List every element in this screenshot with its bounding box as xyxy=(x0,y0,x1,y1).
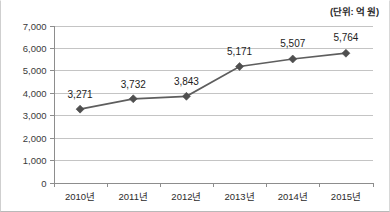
data-point-labels: 3,2713,7323,8435,1715,5075,764 xyxy=(68,32,359,100)
data-point-label: 5,764 xyxy=(333,32,358,43)
x-tick-label: 2014년 xyxy=(278,191,308,202)
chart-container: (단위: 억 원) 01,0002,0003,0004,0005,0006,00… xyxy=(0,0,390,212)
y-tick-label: 6,000 xyxy=(23,43,47,54)
y-axis: 01,0002,0003,0004,0005,0006,0007,000 xyxy=(23,21,54,189)
x-tick-label: 2013년 xyxy=(225,191,255,202)
data-point-label: 5,507 xyxy=(280,38,305,49)
x-tick-label: 2011년 xyxy=(119,191,148,202)
x-axis: 2010년2011년2012년2013년2014년2015년 xyxy=(54,183,374,202)
data-point-label: 3,843 xyxy=(174,76,199,87)
y-tick-label: 1,000 xyxy=(23,155,47,166)
series-marker xyxy=(76,105,84,113)
y-tick-label: 0 xyxy=(41,178,46,189)
series-marker xyxy=(129,95,137,103)
y-tick-label: 5,000 xyxy=(23,65,47,76)
x-tick-label: 2010년 xyxy=(65,191,95,202)
line-chart-plot: 01,0002,0003,0004,0005,0006,0007,000 201… xyxy=(1,1,390,212)
data-point-label: 3,271 xyxy=(68,89,93,100)
data-point-label: 3,732 xyxy=(121,79,146,90)
data-series xyxy=(76,49,350,113)
y-tick-label: 3,000 xyxy=(23,110,47,121)
gridlines-group xyxy=(54,27,373,161)
data-point-label: 5,171 xyxy=(227,46,252,57)
x-tick-label: 2015년 xyxy=(331,191,361,202)
series-marker xyxy=(342,49,350,57)
series-marker xyxy=(289,55,297,63)
x-tick-label: 2012년 xyxy=(171,191,201,202)
y-tick-label: 4,000 xyxy=(23,88,47,99)
y-tick-label: 7,000 xyxy=(23,21,47,32)
y-tick-label: 2,000 xyxy=(23,133,47,144)
series-marker xyxy=(236,63,244,71)
